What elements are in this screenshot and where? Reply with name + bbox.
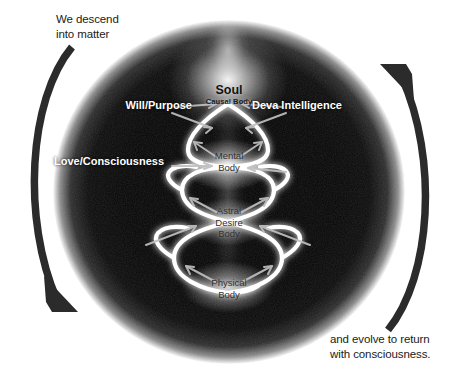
caption-descend: We descend into matter bbox=[56, 12, 119, 41]
diagram-canvas: We descend into matter and evolve to ret… bbox=[0, 0, 458, 380]
caption-evolve: and evolve to return with consciousness. bbox=[330, 332, 430, 361]
sphere-and-helix-layer bbox=[0, 0, 458, 380]
